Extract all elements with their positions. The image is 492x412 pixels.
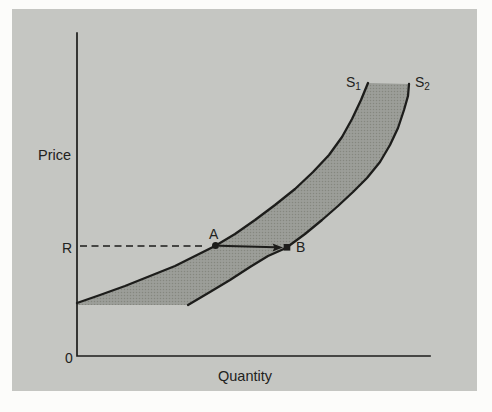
s1-label-base: S xyxy=(346,74,355,90)
point-a-marker xyxy=(212,242,219,249)
economics-figure: Price Quantity 0 R A B S1 S2 xyxy=(0,0,492,412)
y-axis-title: Price xyxy=(38,147,71,163)
origin-label: 0 xyxy=(65,350,73,366)
x-axis-title: Quantity xyxy=(218,368,273,384)
figure-panel xyxy=(12,9,477,391)
point-a-label: A xyxy=(209,226,219,242)
point-b-label: B xyxy=(296,239,305,255)
s2-label-subscript: 2 xyxy=(424,81,430,92)
price-level-label: R xyxy=(62,240,72,256)
s1-label-subscript: 1 xyxy=(355,81,361,92)
s2-label-base: S xyxy=(415,74,424,90)
point-b-marker xyxy=(284,244,291,251)
supply-shift-chart: Price Quantity 0 R A B S1 S2 xyxy=(0,0,492,412)
